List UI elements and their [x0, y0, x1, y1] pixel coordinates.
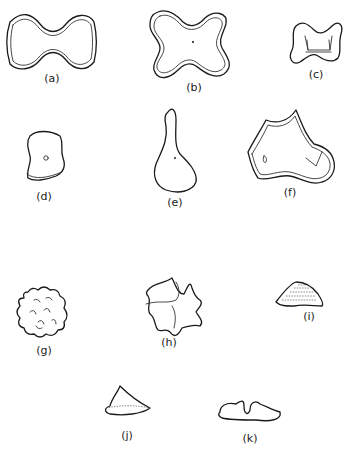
figure-canvas: (a) (b) (c) (d) (e) (f) (g) — [0, 0, 350, 450]
shape-a-inner — [11, 19, 93, 65]
label-j: (j) — [121, 429, 133, 442]
panel-b: (b) — [150, 11, 229, 94]
panel-j: (j) — [106, 386, 151, 442]
label-d: (d) — [36, 190, 52, 203]
shape-c-inner-h — [305, 36, 332, 52]
fold-h — [146, 282, 179, 328]
panel-f: (f) — [248, 110, 334, 199]
center-dot-b — [192, 41, 194, 43]
label-i: (i) — [303, 310, 315, 323]
shape-a-outer — [7, 15, 96, 69]
panel-i: (i) — [276, 282, 323, 323]
label-k: (k) — [243, 432, 258, 445]
label-g: (g) — [36, 344, 52, 357]
label-h: (h) — [161, 336, 177, 349]
panel-c: (c) — [290, 23, 341, 81]
panel-a: (a) — [7, 15, 96, 85]
panel-e: (e) — [154, 109, 196, 209]
label-c: (c) — [309, 68, 324, 81]
shape-d-rim — [27, 172, 62, 178]
pore-f — [263, 156, 266, 163]
label-f: (f) — [284, 186, 296, 199]
ridge-f — [306, 152, 322, 166]
dot-e — [174, 157, 176, 159]
panel-g: (g) — [17, 287, 67, 357]
panel-d: (d) — [27, 132, 64, 204]
shape-k-outline — [219, 401, 281, 421]
shape-i-outline — [276, 282, 323, 306]
shape-g-outline — [17, 287, 67, 337]
shape-b-outer — [150, 11, 229, 78]
panel-h: (h) — [146, 278, 202, 349]
shape-e-body — [154, 109, 196, 192]
label-e: (e) — [167, 196, 182, 209]
rim-j — [106, 406, 150, 408]
shape-c-outer — [290, 23, 341, 63]
panel-k: (k) — [219, 401, 281, 445]
label-a: (a) — [44, 72, 59, 85]
label-b: (b) — [186, 81, 202, 94]
pore-d — [44, 156, 48, 160]
shape-j-cone — [106, 386, 151, 415]
marks-g — [30, 297, 56, 328]
